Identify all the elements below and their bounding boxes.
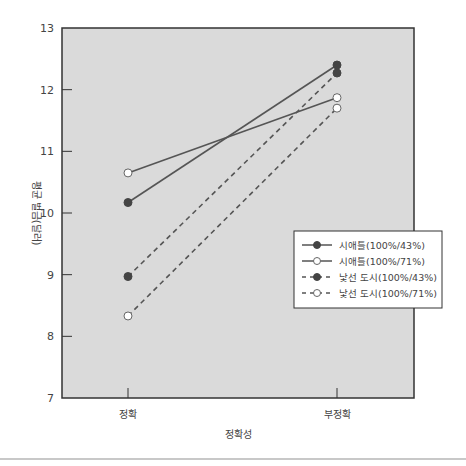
y-tick-label: 7 bbox=[47, 392, 54, 405]
chart-canvas: 78910111213평균 벌금(달러)정확부정확정확성시애틀(100%/43%… bbox=[0, 0, 466, 466]
x-tick-label: 정확 bbox=[119, 409, 137, 420]
legend-label: 낯선 도시(100%/43%) bbox=[339, 272, 437, 283]
filled-circle-marker bbox=[333, 69, 341, 77]
page-divider bbox=[0, 458, 466, 460]
x-tick-label: 부정확 bbox=[324, 409, 351, 420]
legend-filled-marker bbox=[314, 242, 321, 249]
y-tick-label: 13 bbox=[40, 22, 54, 35]
filled-circle-marker bbox=[333, 61, 341, 69]
open-circle-marker bbox=[333, 94, 341, 102]
y-tick-label: 9 bbox=[47, 269, 54, 282]
filled-circle-marker bbox=[124, 199, 132, 207]
legend: 시애틀(100%/43%)시애틀(100%/71%)낯선 도시(100%/43%… bbox=[294, 231, 442, 308]
open-circle-marker bbox=[333, 104, 341, 112]
open-circle-marker bbox=[124, 169, 132, 177]
chart: 78910111213평균 벌금(달러)정확부정확정확성시애틀(100%/43%… bbox=[0, 0, 466, 466]
legend-label: 시애틀(100%/43%) bbox=[339, 240, 425, 251]
legend-open-marker bbox=[314, 258, 321, 265]
plot-area bbox=[62, 28, 414, 398]
legend-filled-marker bbox=[314, 274, 321, 281]
legend-label: 낯선 도시(100%/71%) bbox=[339, 288, 437, 299]
y-tick-label: 11 bbox=[40, 145, 54, 158]
y-tick-label: 8 bbox=[47, 330, 54, 343]
filled-circle-marker bbox=[124, 273, 132, 281]
open-circle-marker bbox=[124, 312, 132, 320]
y-axis-label: 평균 벌금(달러) bbox=[31, 181, 42, 246]
x-axis-label: 정확성 bbox=[225, 429, 252, 440]
legend-label: 시애틀(100%/71%) bbox=[339, 256, 425, 267]
y-tick-label: 12 bbox=[40, 84, 54, 97]
legend-open-marker bbox=[314, 290, 321, 297]
